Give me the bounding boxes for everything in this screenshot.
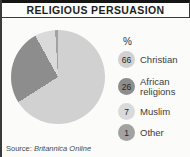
- legend-label-muslim: Muslim: [140, 107, 188, 117]
- legend-label-christian: Christian: [140, 55, 188, 65]
- source-name: Britannica Online: [34, 144, 91, 153]
- legend-unit-header: %: [123, 36, 132, 47]
- legend-item-christian: 66 Christian: [118, 51, 188, 68]
- legend-label-other: Other: [140, 128, 188, 138]
- source-note: Source: Britannica Online: [6, 144, 91, 153]
- pie-chart: [11, 30, 105, 124]
- legend-item-african-religions: 26 African religions: [118, 77, 188, 97]
- legend-item-muslim: 7 Muslim: [118, 103, 188, 120]
- source-prefix: Source:: [6, 144, 34, 153]
- legend-label-african-religions: African religions: [140, 77, 188, 97]
- legend-item-other: 1 Other: [118, 124, 188, 141]
- legend-swatch-african-religions: 26: [118, 78, 135, 95]
- legend-swatch-other: 1: [118, 124, 135, 141]
- chart-card: RELIGIOUS PERSUASION % 66 Christian 26 A…: [0, 0, 190, 157]
- legend-swatch-christian: 66: [118, 51, 135, 68]
- legend: % 66 Christian 26 African religions 7 Mu…: [118, 0, 190, 157]
- legend-swatch-muslim: 7: [118, 103, 135, 120]
